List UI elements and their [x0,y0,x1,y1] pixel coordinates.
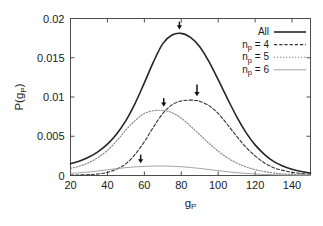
x-tick-label-120: 120 [246,179,264,191]
x-tick-label-100: 100 [209,179,227,191]
legend-label-1: All [258,26,269,37]
y-tick-label-2: 0.01 [43,91,64,103]
x-tick-label-60: 60 [138,179,150,191]
x-tick-label-80: 80 [175,179,187,191]
x-tick-label-140: 140 [283,179,301,191]
chart-figure: 2040608010012014000.0050.010.0150.02P(gP… [0,0,323,226]
y-tick-label-0: 0 [58,170,64,182]
probability-distribution-chart: 2040608010012014000.0050.010.0150.02P(gP… [0,0,323,226]
y-tick-label-1: 0.005 [37,130,65,142]
y-tick-label-4: 0.02 [43,13,64,25]
figure-background [0,0,323,226]
x-tick-label-20: 20 [64,179,76,191]
x-tick-label-40: 40 [101,179,113,191]
y-tick-label-3: 0.015 [37,52,65,64]
